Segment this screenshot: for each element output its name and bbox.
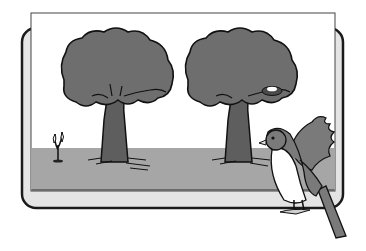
illustration — [0, 0, 366, 251]
nest — [262, 87, 282, 96]
